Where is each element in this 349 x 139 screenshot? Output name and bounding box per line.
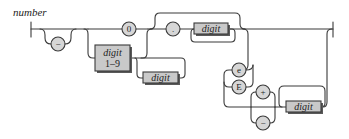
minus-label: − [55,39,60,49]
digit-exp-label: digit [294,101,313,112]
digit19-label-1: digit [103,47,122,58]
e-lower-label: e [237,65,241,75]
plus-right [270,92,275,107]
zero-label: 0 [127,24,132,34]
exp-minus-terminal: − [256,116,270,130]
minus-left [251,107,256,123]
digit-exp-nonterminal: digit [286,101,323,114]
digit-frac-label: digit [202,23,221,34]
exp-return [321,29,332,107]
digit-repeat-in [135,58,143,78]
e-upper-label: E [236,82,242,92]
digit-int-repeat-nonterminal: digit [143,72,180,85]
e-upper-terminal: E [232,80,246,94]
minus-right [270,107,275,123]
e-lower-terminal: e [232,63,246,77]
dot-label: . [172,24,174,34]
path-to-digit19 [84,29,95,58]
plus-label: + [260,87,265,97]
digit19-label-2: 1–9 [105,58,120,69]
digit19-nonterminal: digit 1–9 [95,45,132,73]
plus-left [251,92,256,107]
E-left-join [224,82,232,87]
plus-terminal: + [256,85,270,99]
dot-terminal: . [166,22,180,36]
digit-int-repeat-label: digit [151,72,170,83]
number-syntax-diagram: number − 0 [0,0,349,139]
zero-terminal: 0 [122,22,136,36]
exp-minus-label: − [260,118,265,128]
digit-frac-nonterminal: digit [194,23,230,36]
diagram-title: number [13,6,47,18]
minus-terminal: − [51,37,65,51]
